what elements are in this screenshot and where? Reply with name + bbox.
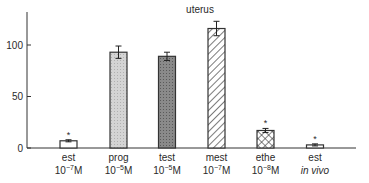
bar-group: * [257,118,274,148]
bars: *** [60,21,324,148]
category-label: est [62,152,76,163]
category-label: test [159,152,175,163]
bar-group [159,52,176,148]
bar [257,130,274,148]
category-label: mest [206,152,228,163]
bar [110,52,127,148]
bar-group [208,21,225,148]
category-sublabel: in vivo [301,165,330,176]
category-labels: est10−7Mprog10−5Mtest10−5Mmest10−7Methe1… [55,152,330,176]
chart-title: uterus [186,4,214,15]
y-tick-label: 0 [17,143,23,154]
bar-group [110,46,127,148]
significance-marker: * [67,130,71,140]
category-sublabel: 10−5M [153,164,180,176]
bar-group: * [60,130,77,148]
category-sublabel: 10−8M [252,164,279,176]
significance-marker: * [313,134,317,144]
category-sublabel: 10−5M [105,164,132,176]
category-sublabel: 10−7M [203,164,230,176]
bar [208,29,225,148]
category-sublabel: 10−7M [55,164,82,176]
significance-marker: * [264,118,268,128]
y-tick-label: 50 [12,91,24,102]
category-label: ethe [256,152,276,163]
bar [159,56,176,148]
bar-chart: uterus 050100 *** est10−7Mprog10−5Mtest1… [0,0,369,183]
y-tick-label: 100 [6,40,23,51]
bar-group: * [307,134,324,148]
category-label: prog [108,152,128,163]
category-label: est [308,152,322,163]
y-axis: 050100 [6,12,31,154]
